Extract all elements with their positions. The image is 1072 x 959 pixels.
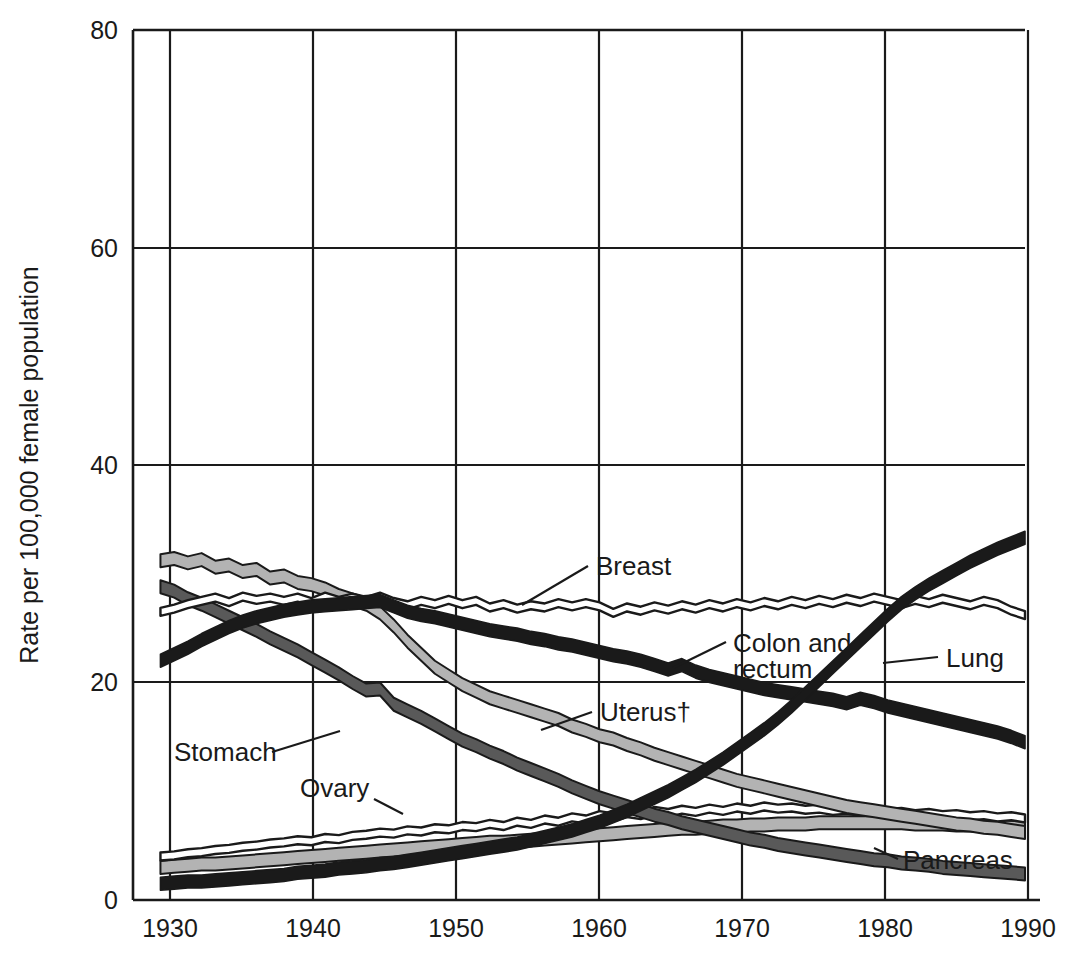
series-label-uterus: Uterus† (600, 697, 691, 727)
series-label-colon-2: rectum (733, 654, 812, 684)
x-tick-label-1930: 1930 (142, 914, 198, 942)
x-tick-label-1950: 1950 (428, 914, 484, 942)
series-label-stomach: Stomach (174, 737, 277, 767)
y-tick-label-60: 60 (90, 234, 118, 262)
y-tick-label-0: 0 (104, 886, 118, 914)
y-tick-label-80: 80 (90, 16, 118, 44)
series-label-lung: Lung (946, 643, 1004, 673)
series-label-ovary: Ovary (300, 773, 369, 803)
cancer-death-rate-chart: Rate per 100,000 female population 80 60… (0, 0, 1072, 959)
x-tick-label-1960: 1960 (571, 914, 627, 942)
x-tick-label-1940: 1940 (285, 914, 341, 942)
chart-canvas: Rate per 100,000 female population 80 60… (0, 0, 1072, 959)
x-tick-label-1970: 1970 (714, 914, 770, 942)
y-axis-title: Rate per 100,000 female population (15, 266, 43, 664)
series-label-breast: Breast (596, 551, 672, 581)
series-label-pancreas: Pancreas (903, 845, 1013, 875)
y-tick-label-20: 20 (90, 668, 118, 696)
x-tick-label-1980: 1980 (857, 914, 913, 942)
x-tick-label-1990: 1990 (1000, 914, 1056, 942)
y-tick-label-40: 40 (90, 451, 118, 479)
